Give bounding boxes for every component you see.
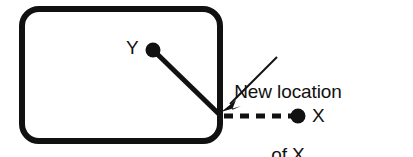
connector-line-y-to-boundary	[153, 50, 221, 116]
annotation-line-1: New location	[234, 81, 342, 102]
annotation-new-location-of-x: New location of X	[234, 38, 342, 157]
point-marker-y	[146, 43, 161, 58]
annotation-line-2: of X	[234, 144, 342, 157]
diagram-svg	[0, 0, 413, 157]
figure-canvas: Y X New location of X	[0, 0, 413, 157]
region-boundary-rectangle	[22, 9, 220, 141]
point-label-y: Y	[126, 37, 139, 58]
